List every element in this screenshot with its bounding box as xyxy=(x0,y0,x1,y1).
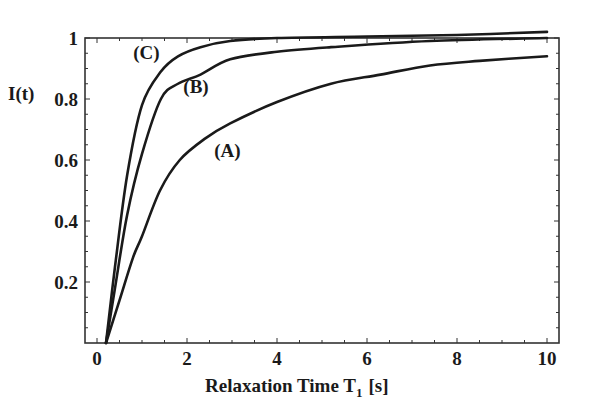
y-axis-title: I(t) xyxy=(8,83,34,105)
y-tick-label: 0.2 xyxy=(54,272,78,293)
x-axis-title: Relaxation Time T1[s] xyxy=(205,375,389,400)
y-tick-label: 0.8 xyxy=(54,89,78,110)
x-axis-ticks: 0246810 xyxy=(92,38,556,369)
y-tick-label: 0.4 xyxy=(54,211,78,232)
x-tick-label: 4 xyxy=(272,348,282,369)
curve-label-b: (B) xyxy=(183,76,208,98)
x-tick-label: 10 xyxy=(538,348,557,369)
y-tick-label: 1 xyxy=(69,28,79,49)
x-tick-label: 8 xyxy=(452,348,462,369)
plot-border xyxy=(85,38,559,343)
series-layer xyxy=(106,32,547,343)
x-axis-title-main: Relaxation Time T xyxy=(205,375,356,396)
series-line-a xyxy=(106,56,547,343)
x-axis-title-subscript: 1 xyxy=(356,385,363,400)
curve-label-c: (C) xyxy=(133,42,159,64)
relaxation-chart: 0246810 0.20.40.60.81 (A)(B)(C) I(t) Rel… xyxy=(0,0,589,419)
x-tick-label: 0 xyxy=(92,348,102,369)
curve-label-a: (A) xyxy=(214,140,240,162)
x-axis-title-unit: [s] xyxy=(368,375,388,396)
series-line-c xyxy=(106,32,547,343)
y-axis-ticks: 0.20.40.60.81 xyxy=(54,28,559,328)
x-tick-label: 6 xyxy=(362,348,372,369)
x-tick-label: 2 xyxy=(182,348,192,369)
plot-frame xyxy=(85,38,559,343)
y-tick-label: 0.6 xyxy=(54,150,78,171)
